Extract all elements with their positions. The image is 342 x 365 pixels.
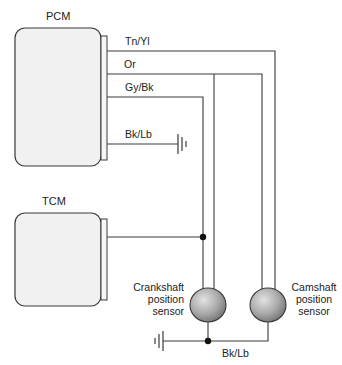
- crankshaft-sensor-label: Crankshaft position sensor: [133, 281, 184, 317]
- wire-gy-bk: [107, 97, 203, 290]
- svg-text:position: position: [296, 293, 332, 305]
- pcm-module: [15, 28, 107, 166]
- ground-icon: [178, 134, 186, 154]
- camshaft-sensor-icon: [250, 288, 286, 322]
- ground-icon: [155, 331, 163, 351]
- junction-dot: [205, 338, 211, 344]
- pcm-label: PCM: [46, 10, 70, 22]
- wire-label-gy-bk: Gy/Bk: [125, 81, 154, 93]
- tcm-label: TCM: [42, 195, 66, 207]
- tcm-module: [15, 213, 107, 306]
- svg-text:sensor: sensor: [152, 305, 184, 317]
- wire-or: [107, 74, 262, 293]
- wiring-diagram: PCM TCM Tn/Yl O: [0, 0, 342, 365]
- svg-text:Crankshaft: Crankshaft: [133, 281, 184, 293]
- crankshaft-sensor-icon: [190, 288, 226, 322]
- wire-bk-lb-sensors: [163, 322, 268, 341]
- wire-label-bk-lb-pcm: Bk/Lb: [125, 128, 152, 140]
- wire-label-bk-lb-sensors: Bk/Lb: [222, 347, 249, 359]
- junction-dot: [200, 234, 206, 240]
- wire-label-or: Or: [124, 58, 136, 70]
- svg-text:position: position: [148, 293, 184, 305]
- svg-text:Camshaft: Camshaft: [292, 281, 337, 293]
- svg-text:sensor: sensor: [298, 305, 330, 317]
- wire-label-tn-yl: Tn/Yl: [125, 35, 150, 47]
- camshaft-sensor-label: Camshaft position sensor: [292, 281, 337, 317]
